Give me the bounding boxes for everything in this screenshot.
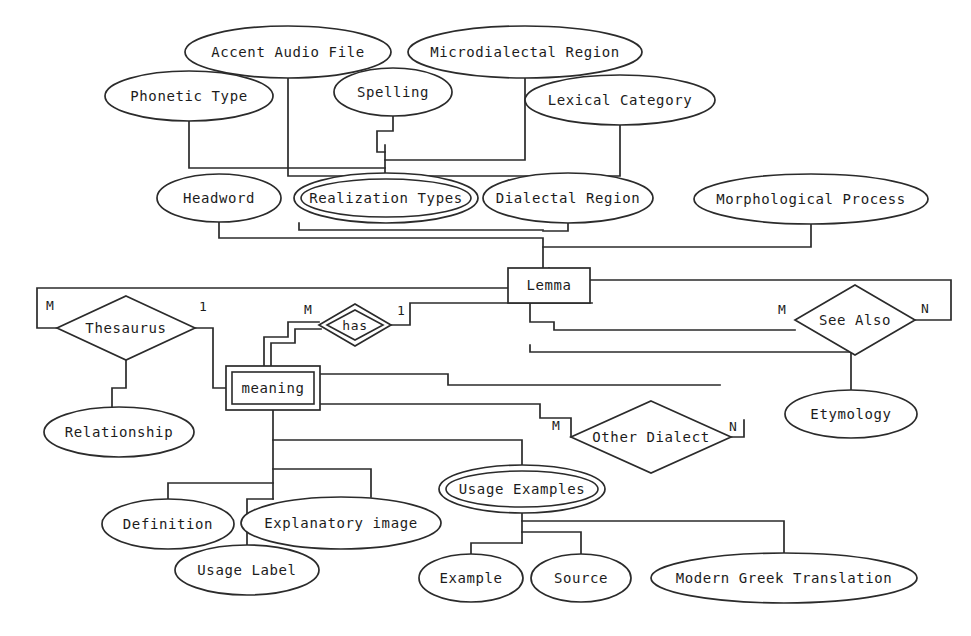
usage-label-text: Usage Label xyxy=(197,562,296,578)
node-see-also[interactable]: See Also xyxy=(795,285,915,355)
cardinality-see-also-m: M xyxy=(778,302,786,317)
cardinality-thesaurus-m: M xyxy=(46,298,54,313)
node-lemma[interactable]: Lemma xyxy=(508,268,590,303)
node-realization-types[interactable]: Realization Types xyxy=(294,173,478,223)
edge-usage-examples-to-example xyxy=(471,543,522,554)
edge-lexical-category-to-hub xyxy=(385,125,620,176)
node-spelling[interactable]: Spelling xyxy=(334,68,452,116)
node-has[interactable]: has xyxy=(319,304,391,346)
edge-lemma-to-see-also-bottom xyxy=(530,303,795,330)
etymology-label: Etymology xyxy=(810,406,891,422)
edge-meaning-to-explanatory-image xyxy=(273,469,371,497)
edge-meaning-to-usage-examples xyxy=(273,440,522,465)
node-headword[interactable]: Headword xyxy=(157,174,281,222)
phonetic-type-label: Phonetic Type xyxy=(130,88,247,104)
node-usage-label[interactable]: Usage Label xyxy=(175,545,319,595)
morphological-process-label: Morphological Process xyxy=(716,191,906,207)
cardinality-see-also-n: N xyxy=(921,301,929,316)
edge-phonetic-type-to-hub xyxy=(189,121,385,168)
cardinality-thesaurus-1: 1 xyxy=(199,299,207,314)
modern-greek-translation-label: Modern Greek Translation xyxy=(676,570,893,586)
edge-see-also-to-etymology xyxy=(530,345,851,390)
node-morphological-process[interactable]: Morphological Process xyxy=(694,174,928,224)
node-relationship[interactable]: Relationship xyxy=(44,407,194,457)
edge-thesaurus-to-relationship xyxy=(112,360,126,408)
node-microdialectal-region[interactable]: Microdialectal Region xyxy=(408,26,642,78)
node-accent-audio-file[interactable]: Accent Audio File xyxy=(185,26,391,78)
cardinality-has-1: 1 xyxy=(397,303,405,318)
cardinality-other-dialect-m: M xyxy=(552,418,560,433)
lexical-category-label: Lexical Category xyxy=(548,92,692,108)
node-phonetic-type[interactable]: Phonetic Type xyxy=(105,71,273,121)
accent-audio-file-label: Accent Audio File xyxy=(211,44,365,60)
cardinality-other-dialect-n: N xyxy=(729,419,737,434)
node-example[interactable]: Example xyxy=(419,554,523,602)
edge-usage-examples-to-modern-greek xyxy=(522,521,784,553)
realization-types-label: Realization Types xyxy=(309,190,463,206)
edge-has-to-lemma xyxy=(391,303,592,325)
edge-usage-examples-to-source xyxy=(522,532,581,554)
source-label: Source xyxy=(554,570,608,586)
node-source[interactable]: Source xyxy=(531,554,631,602)
definition-label: Definition xyxy=(123,516,213,532)
cardinality-has-m: M xyxy=(304,302,312,317)
dialectal-region-label: Dialectal Region xyxy=(496,190,640,206)
headword-label: Headword xyxy=(183,190,255,206)
node-modern-greek-translation[interactable]: Modern Greek Translation xyxy=(651,553,917,603)
explanatory-image-label: Explanatory image xyxy=(264,515,418,531)
node-etymology[interactable]: Etymology xyxy=(785,390,917,438)
see-also-label: See Also xyxy=(819,312,891,328)
edge-meaning-to-has-b xyxy=(271,329,321,368)
edge-headword-to-lemma xyxy=(219,222,543,268)
edge-meaning-to-other-dialect xyxy=(320,374,720,385)
edge-realization-types-to-lemma xyxy=(299,223,543,230)
meaning-label: meaning xyxy=(241,380,304,396)
node-definition[interactable]: Definition xyxy=(102,499,234,549)
lemma-label: Lemma xyxy=(526,277,571,293)
example-label: Example xyxy=(439,570,502,586)
edge-thesaurus-to-meaning xyxy=(195,328,226,388)
has-label: has xyxy=(342,318,367,333)
spelling-label: Spelling xyxy=(357,84,429,100)
usage-examples-label: Usage Examples xyxy=(459,481,585,497)
edge-dialectal-region-to-lemma xyxy=(543,223,568,231)
edge-meaning-to-definition xyxy=(168,483,273,499)
node-usage-examples[interactable]: Usage Examples xyxy=(439,465,605,513)
node-explanatory-image[interactable]: Explanatory image xyxy=(241,497,441,549)
other-dialect-label: Other Dialect xyxy=(592,429,709,445)
thesaurus-label: Thesaurus xyxy=(85,320,166,336)
er-diagram-canvas: Accent Audio File Microdialectal Region … xyxy=(0,0,971,636)
er-diagram-svg: Accent Audio File Microdialectal Region … xyxy=(0,0,971,636)
edge-morphological-process-to-lemma xyxy=(543,224,811,247)
node-meaning[interactable]: meaning xyxy=(226,366,320,410)
relationship-label: Relationship xyxy=(65,424,173,440)
microdialectal-region-label: Microdialectal Region xyxy=(430,44,620,60)
node-other-dialect[interactable]: Other Dialect xyxy=(571,401,731,473)
node-dialectal-region[interactable]: Dialectal Region xyxy=(483,173,653,223)
node-thesaurus[interactable]: Thesaurus xyxy=(57,296,195,360)
edge-meaning-to-other-dialect-2 xyxy=(320,404,571,437)
node-lexical-category[interactable]: Lexical Category xyxy=(525,75,715,125)
